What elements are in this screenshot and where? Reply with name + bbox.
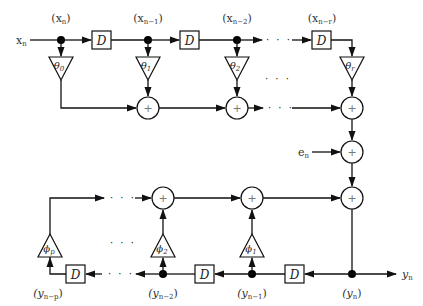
delay-label: D xyxy=(316,34,327,48)
plus-sign: + xyxy=(247,192,256,205)
line-dp-to-phip xyxy=(50,258,66,274)
tap-label-y0: (yn) xyxy=(342,287,361,301)
line-dr-to-theta-r xyxy=(331,40,352,56)
input-label: xn xyxy=(16,34,27,48)
delay-label: D xyxy=(199,268,210,282)
tap-label-xr: (xn−r) xyxy=(308,12,337,26)
plus-sign: + xyxy=(347,102,356,115)
tap-label-y1: (yn−1) xyxy=(237,287,267,301)
tap-label-x0: (xn) xyxy=(51,12,70,26)
ellipsis-sum: · · · xyxy=(268,102,294,113)
ellipsis-top: · · · xyxy=(266,34,292,45)
tap-label-x1: (xn−1) xyxy=(133,12,163,26)
line-theta0-sum1 xyxy=(61,80,136,108)
delay-label: D xyxy=(70,268,81,282)
plus-sign: + xyxy=(232,102,241,115)
plus-sign: + xyxy=(158,192,167,205)
error-label: en xyxy=(298,146,310,160)
tap-label-yp: (yn−p) xyxy=(33,287,63,301)
plus-sign: + xyxy=(347,192,356,205)
plus-sign: + xyxy=(347,146,356,159)
delay-label: D xyxy=(289,268,300,282)
delay-label: D xyxy=(96,34,107,48)
ellipsis-ar-sum: · · · xyxy=(110,192,136,203)
ellipsis-bottom: · · · xyxy=(108,268,134,279)
tap-label-y2: (yn−2) xyxy=(148,287,178,301)
ellipsis-phi: · · · xyxy=(110,237,136,248)
delay-label: D xyxy=(184,34,195,48)
output-label: yn xyxy=(401,268,413,282)
ellipsis-theta: · · · xyxy=(265,73,291,84)
tap-label-x2: (xn−2) xyxy=(222,12,252,26)
plus-sign: + xyxy=(143,102,152,115)
arma-block-diagram: xn D D · · · D (xn) (xn−1) (xn−2) (xn−r)… xyxy=(0,0,423,306)
